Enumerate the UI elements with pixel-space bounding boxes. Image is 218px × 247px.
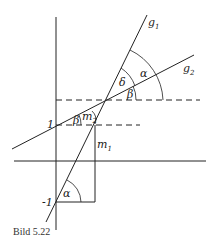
label-m2: m2	[82, 110, 97, 125]
figure-caption: Bild 5.22	[13, 226, 50, 237]
label-alpha-bottom: α	[63, 187, 71, 200]
geometry-diagram: g1 g2 α δ β β m2 m1 α 1 -1	[0, 0, 218, 247]
label-g2: g2	[183, 62, 195, 77]
line-g2	[12, 55, 194, 149]
label-beta-top: β	[126, 88, 133, 101]
label-g1: g1	[148, 16, 160, 31]
tick-label-minus-one: -1	[42, 196, 53, 209]
label-alpha-top: α	[140, 67, 148, 80]
arc-beta-top	[133, 86, 136, 100]
label-delta: δ	[119, 76, 126, 89]
label-beta-left: β	[72, 114, 79, 127]
label-m1: m1	[97, 138, 112, 153]
tick-label-one: 1	[47, 118, 54, 131]
